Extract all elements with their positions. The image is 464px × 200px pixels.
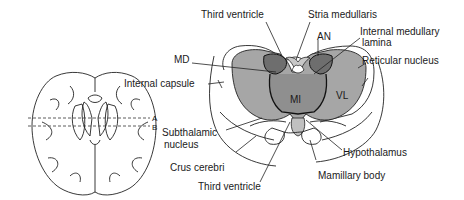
third-ventricle-top-space (292, 65, 304, 73)
cut-label-a: A (152, 114, 158, 123)
label-hypothalamus: Hypothalamus (343, 147, 407, 158)
label-an: AN (317, 31, 331, 42)
label-subthalamic-1: Subthalamic (162, 127, 217, 138)
label-subthalamic-2: nucleus (164, 139, 198, 150)
third-ventricle-bottom-shape (291, 118, 305, 136)
label-mamillary-body: Mamillary body (318, 170, 385, 181)
label-third-ventricle-bottom: Third ventricle (198, 181, 261, 192)
label-vl: VL (336, 90, 349, 101)
label-reticular-nucleus: Reticular nucleus (362, 55, 439, 66)
subthalamic-left (265, 128, 284, 144)
label-third-ventricle-top: Third ventricle (201, 9, 264, 20)
label-internal-medullary-2: lamina (362, 37, 392, 48)
label-md: MD (174, 54, 190, 65)
label-internal-capsule: Internal capsule (124, 78, 195, 89)
label-crus-cerebri: Crus cerebri (170, 162, 224, 173)
thalamus-diagram: A B MI VL Third ventri (0, 0, 464, 200)
label-internal-medullary-1: Internal medullary (360, 26, 439, 37)
cut-label-b: B (152, 123, 157, 132)
label-stria-medullaris: Stria medullaris (308, 9, 377, 20)
brain-locator-outline (28, 72, 156, 195)
label-mi: MI (290, 94, 301, 105)
